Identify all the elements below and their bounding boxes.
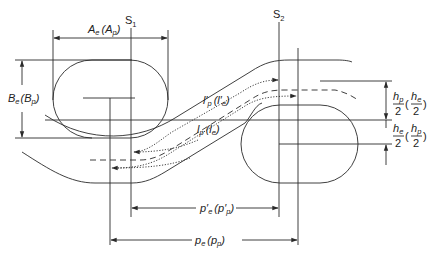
label-s1: S1 [125, 14, 137, 29]
label-pe-prime: p′e(p′p) [199, 202, 234, 216]
svg-text:(: ( [405, 130, 409, 142]
svg-text:2: 2 [395, 137, 401, 149]
left-coil-outline [53, 60, 168, 138]
label-he-half: he 2 ( hp 2 ) [393, 122, 427, 149]
label-s2: S2 [273, 8, 285, 23]
svg-text:): ) [423, 130, 427, 142]
svg-text:he: he [393, 122, 403, 136]
svg-text:(: ( [405, 98, 409, 110]
conductor-lower-edge [22, 103, 262, 183]
svg-text:2: 2 [413, 137, 419, 149]
conductor-path-outer-dotted [136, 80, 278, 152]
svg-text:): ) [423, 98, 427, 110]
svg-text:hp: hp [393, 90, 403, 104]
label-hp-half: hp 2 ( he 2 ) [393, 90, 427, 117]
label-ae: Ae(Ap) [87, 23, 121, 37]
label-lp-prime: l′p(l′e) [203, 94, 230, 108]
label-lp: lp(le) [197, 123, 220, 137]
label-be: Be(Bp) [8, 92, 40, 106]
svg-text:hp: hp [411, 122, 421, 136]
svg-text:2: 2 [413, 105, 419, 117]
label-pe: pe(pp) [194, 234, 225, 248]
svg-text:he: he [411, 90, 421, 104]
svg-text:2: 2 [395, 105, 401, 117]
coil-winding-diagram: S1 S2 Ae(Ap) Be(Bp) l′p(l′e) lp(le) p′e(… [0, 0, 435, 258]
